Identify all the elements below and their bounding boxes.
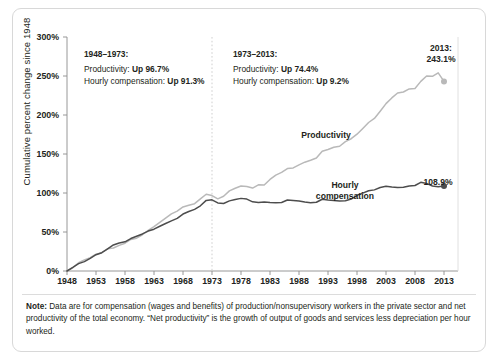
note-text: Data are for compensation (wages and ben… <box>26 302 470 336</box>
annotation-row-value: Up 96.7% <box>132 64 169 74</box>
endpoint-label-compensation: 108.9% <box>411 177 465 188</box>
note-divider <box>22 294 476 295</box>
endpoint-marker-productivity <box>441 78 447 84</box>
endpoint-label-year: 2013: <box>430 43 452 53</box>
series-line-productivity <box>67 73 444 271</box>
endpoint-markers <box>441 78 447 189</box>
endpoint-label-value: 243.1% <box>426 54 455 64</box>
figure-note: Note: Data are for compensation (wages a… <box>26 301 472 338</box>
annotation-heading: 1973–2013: <box>233 48 349 60</box>
note-prefix: Note: <box>26 302 47 311</box>
annotation-row-value: Up 91.3% <box>167 76 204 86</box>
annotation-row-label: Hourly compensation: <box>84 76 167 86</box>
annotation-row: Productivity: Up 74.4% <box>233 63 349 75</box>
endpoint-label-value: 108.9% <box>423 177 452 187</box>
annotation-1973-2013: 1973–2013: Productivity: Up 74.4% Hourly… <box>233 48 349 87</box>
series-lines <box>67 73 444 271</box>
series-label-text-line1: Hourly <box>331 180 358 190</box>
annotation-row-value: Up 74.4% <box>281 64 318 74</box>
annotation-1948-1973: 1948–1973: Productivity: Up 96.7% Hourly… <box>84 48 205 87</box>
series-label-compensation: Hourly compensation <box>300 180 390 201</box>
series-label-text-line2: compensation <box>316 191 374 201</box>
endpoint-label-productivity: 2013: 243.1% <box>414 43 468 64</box>
annotation-heading: 1948–1973: <box>84 48 205 60</box>
annotation-row-label: Productivity: <box>84 64 132 74</box>
annotation-row: Hourly compensation: Up 9.2% <box>233 75 349 87</box>
series-label-productivity: Productivity <box>288 130 364 141</box>
productivity-pay-gap-figure: Cumulative percent change since 1948 0%5… <box>0 0 498 362</box>
annotation-row-value: Up 9.2% <box>316 76 349 86</box>
annotation-row: Productivity: Up 96.7% <box>84 63 205 75</box>
series-label-text: Productivity <box>301 130 351 140</box>
annotation-row-label: Hourly compensation: <box>233 76 316 86</box>
annotation-row: Hourly compensation: Up 91.3% <box>84 75 205 87</box>
annotation-row-label: Productivity: <box>233 64 281 74</box>
